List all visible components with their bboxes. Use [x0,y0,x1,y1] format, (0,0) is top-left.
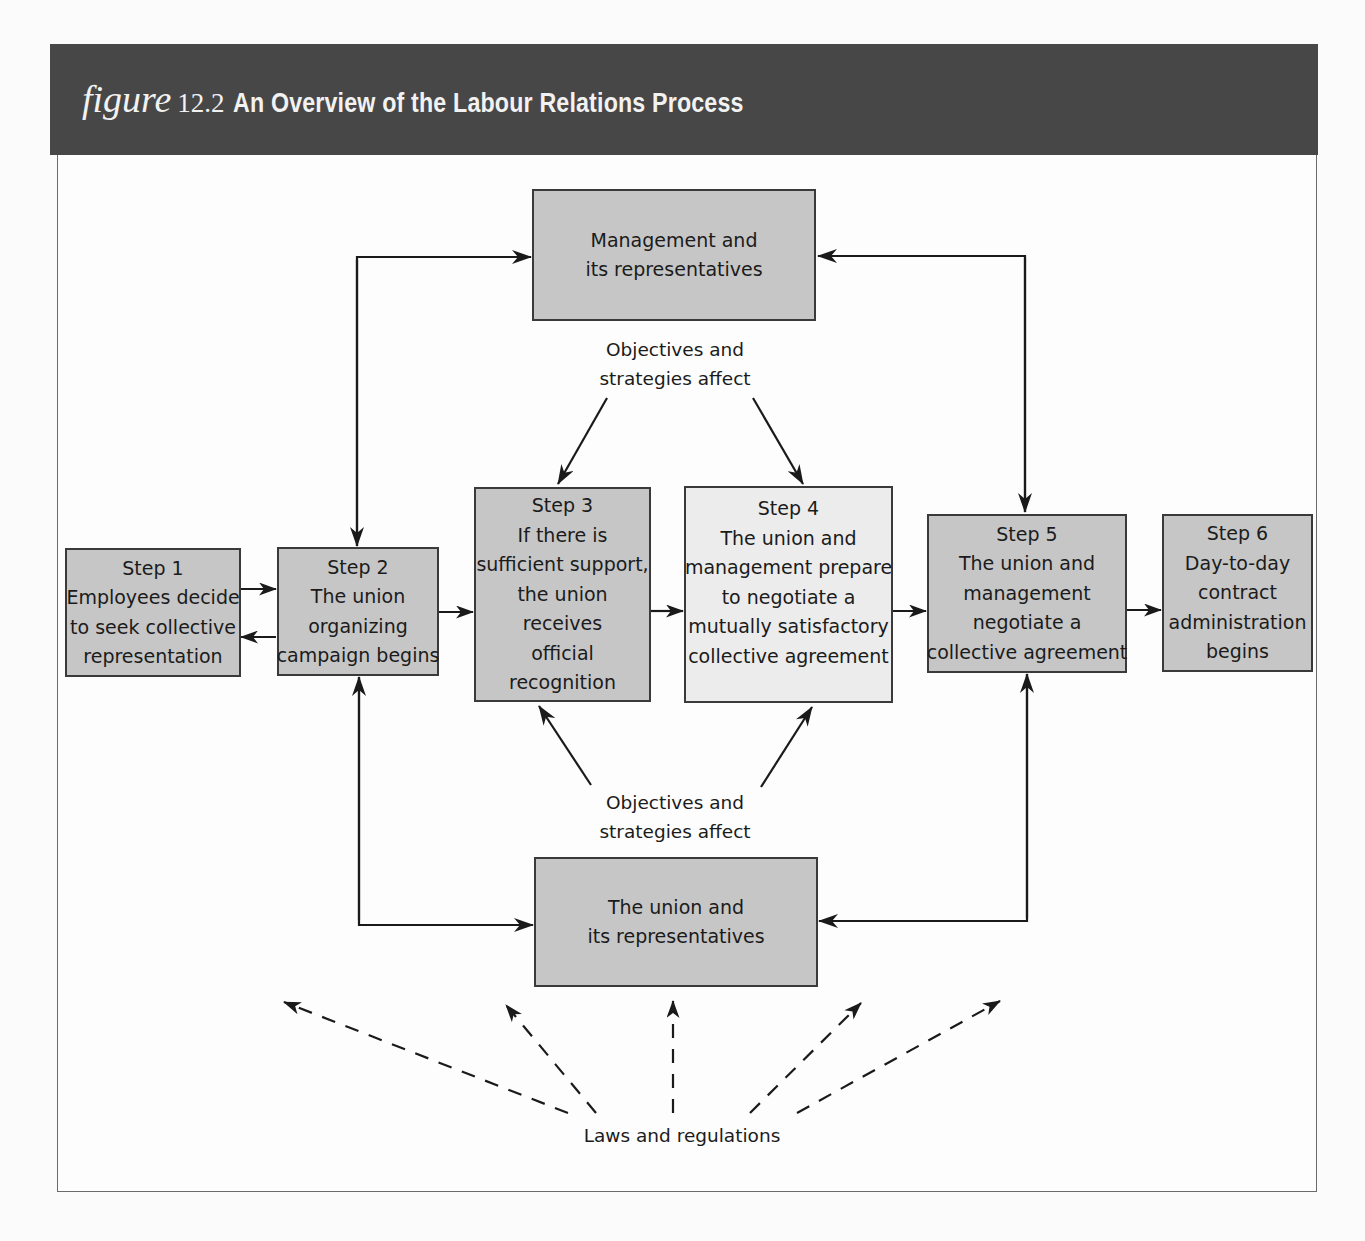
step-6-line: contract [1198,578,1277,608]
step-3-line: receives [523,609,602,639]
step-6-line: begins [1206,637,1269,667]
management-box: Management and its representatives [532,189,816,321]
step-3-line: recognition [509,668,616,698]
step-2-label: Step 2 [327,553,388,583]
top-influence-line-2: strategies affect [575,364,775,393]
union-line-1: The union and [608,893,744,923]
step-3-line: sufficient support, [476,550,648,580]
step-1-line: representation [83,642,222,672]
step-5-line: The union and [959,549,1095,579]
step-6-line: Day-to-day [1185,549,1290,579]
management-line-2: its representatives [585,255,762,285]
step-1-box: Step 1 Employees decide to seek collecti… [65,548,241,677]
influence-top-step3 [558,398,607,484]
step-4-line: The union and [720,524,856,554]
influence-bottom-step3 [539,706,591,785]
step-1-label: Step 1 [122,554,183,584]
step-5-line: negotiate a [973,608,1082,638]
management-line-1: Management and [591,226,758,256]
step-4-box: Step 4 The union and management prepare … [684,486,893,703]
step-4-label: Step 4 [758,494,819,524]
step-5-box: Step 5 The union and management negotiat… [927,514,1127,673]
top-influence-label: Objectives and strategies affect [575,335,775,393]
step-6-box: Step 6 Day-to-day contract administratio… [1162,514,1313,672]
laws-arrow-4 [750,1003,861,1113]
laws-arrow-1 [284,1002,568,1113]
step-2-line: organizing [308,612,407,642]
step-2-line: campaign begins [277,641,440,671]
bottom-influence-line-1: Objectives and [575,788,775,817]
step-3-box: Step 3 If there is sufficient support, t… [474,487,651,702]
connector-union-step2 [359,677,533,925]
union-line-2: its representatives [587,922,764,952]
step-6-line: administration [1168,608,1306,638]
step-3-line: official [531,639,594,669]
union-box: The union and its representatives [534,857,818,987]
step-3-label: Step 3 [532,491,593,521]
step-1-line: to seek collective [70,613,236,643]
step-4-line: mutually satisfactory [688,612,889,642]
laws-arrow-2 [506,1005,596,1113]
step-4-line: collective agreement [688,642,889,672]
step-3-line: the union [517,580,607,610]
connector-management-step5 [818,256,1025,512]
step-4-line: management prepare [685,553,892,583]
step-5-line: management [963,579,1090,609]
step-5-label: Step 5 [996,520,1057,550]
step-2-box: Step 2 The union organizing campaign beg… [277,547,439,676]
step-4-line: to negotiate a [722,583,856,613]
top-influence-line-1: Objectives and [575,335,775,364]
bottom-influence-line-2: strategies affect [575,817,775,846]
step-1-line: Employees decide [66,583,239,613]
step-6-label: Step 6 [1207,519,1268,549]
connector-union-step5 [819,674,1027,921]
step-5-line: collective agreement [927,638,1128,668]
influence-top-step4 [753,398,803,484]
laws-arrow-5 [797,1001,1000,1113]
laws-label: Laws and regulations [562,1121,802,1150]
bottom-influence-label: Objectives and strategies affect [575,788,775,846]
influence-bottom-step4 [761,707,812,787]
step-3-line: If there is [518,521,608,551]
step-2-line: The union [311,582,405,612]
